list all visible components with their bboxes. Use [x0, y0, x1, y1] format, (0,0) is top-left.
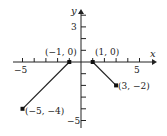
label-point-neg5-neg4: (−5, −4)	[25, 106, 64, 116]
x-tick-label-neg5: −5	[14, 65, 28, 75]
point-neg5-neg4	[21, 107, 25, 111]
y-tick-label-3: 3	[71, 22, 77, 32]
point-1-0	[91, 60, 95, 64]
segment-left	[23, 62, 70, 109]
x-axis-arrow-icon	[152, 59, 157, 65]
piecewise-graph: x y −5 5 3 −5 (−5, −4) (−1, 0) (1, 0) (3…	[0, 0, 167, 136]
label-point-1-0: (1, 0)	[95, 47, 119, 57]
segment-right	[93, 62, 116, 85]
y-axis-arrow-icon	[78, 9, 84, 14]
point-neg1-0	[67, 60, 71, 64]
y-ticks	[81, 15, 86, 120]
x-axis-label: x	[150, 48, 156, 59]
label-point-3-neg2: (3, −2)	[118, 81, 150, 91]
y-axis-label: y	[70, 5, 77, 16]
y-tick-label-neg5: −5	[67, 116, 81, 126]
x-tick-label-5: 5	[134, 65, 140, 75]
label-point-neg1-0: (−1, 0)	[45, 47, 77, 57]
